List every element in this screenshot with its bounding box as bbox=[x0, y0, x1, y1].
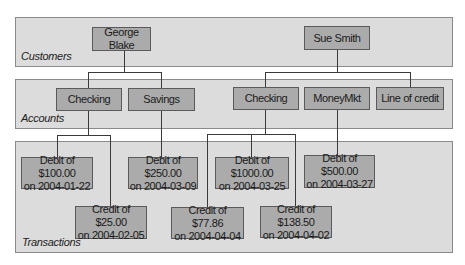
customer-node-george-blake[interactable]: George Blake bbox=[92, 27, 151, 51]
transaction-node[interactable]: Credit of $25.00 on 2004-02-05 bbox=[75, 206, 147, 239]
connector bbox=[410, 72, 411, 87]
connector bbox=[337, 49, 338, 72]
connector bbox=[110, 135, 111, 206]
customers-band-label: Customers bbox=[21, 50, 71, 62]
connector bbox=[337, 110, 338, 155]
transaction-node[interactable]: Debit of $1000.00 on 2004-03-25 bbox=[215, 157, 289, 189]
connector bbox=[265, 72, 266, 88]
transaction-node[interactable]: Debit of $100.00 on 2004-01-22 bbox=[21, 157, 93, 189]
connector bbox=[265, 110, 266, 134]
account-node-moneymkt[interactable]: MoneyMkt bbox=[304, 87, 370, 110]
transaction-node[interactable]: Debit of $250.00 on 2004-03-09 bbox=[128, 157, 198, 189]
account-node-checking-sue[interactable]: Checking bbox=[233, 87, 299, 110]
connector bbox=[295, 134, 296, 206]
connector bbox=[161, 72, 162, 88]
account-node-checking-george[interactable]: Checking bbox=[56, 88, 122, 111]
accounts-band-label: Accounts bbox=[21, 112, 64, 124]
connector bbox=[57, 135, 111, 136]
connector bbox=[265, 72, 411, 73]
connector bbox=[207, 134, 208, 207]
account-node-savings[interactable]: Savings bbox=[128, 88, 195, 111]
transaction-node[interactable]: Credit of $138.50 on 2004-04-02 bbox=[260, 206, 332, 238]
connector bbox=[88, 72, 162, 73]
diagram-canvas: Customers Accounts Transactions George B… bbox=[0, 0, 465, 265]
transactions-band-label: Transactions bbox=[22, 236, 81, 248]
connector bbox=[88, 110, 89, 135]
account-node-line-of-credit[interactable]: Line of credit bbox=[376, 87, 444, 110]
transaction-node[interactable]: Debit of $500.00 on 2004-03-27 bbox=[304, 155, 375, 188]
connector bbox=[88, 72, 89, 88]
transaction-node[interactable]: Credit of $77.86 on 2004-04-04 bbox=[171, 207, 244, 239]
connector bbox=[161, 110, 162, 157]
customers-band bbox=[15, 17, 453, 67]
customer-node-sue-smith[interactable]: Sue Smith bbox=[304, 26, 370, 50]
connector bbox=[124, 50, 125, 72]
